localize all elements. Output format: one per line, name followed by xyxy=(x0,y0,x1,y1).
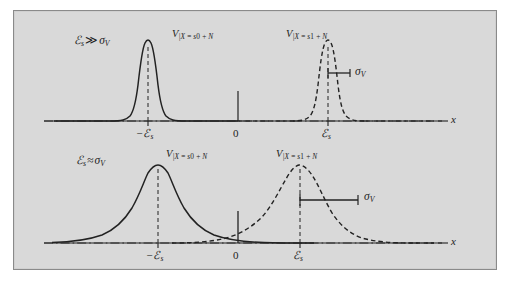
top-left-curve-label-cond: |X = s0 + N xyxy=(178,32,213,41)
top-tick-label-minus-es: −ℰs xyxy=(136,128,153,141)
bottom-tick-E-sub: s xyxy=(160,254,163,263)
bottom-sigma-sub: V xyxy=(370,195,375,204)
bottom-regime-label: ℰs≈σV xyxy=(76,155,105,168)
top-sigma-sub: V xyxy=(361,70,366,79)
top-regime-relation: ≫ xyxy=(84,34,99,46)
bottom-right-curve-label-cond: |X = s1 + N xyxy=(282,152,317,161)
top-right-curve-label-cond: |X = s1 + N xyxy=(292,32,327,41)
top-sigma-annotation-label: σV xyxy=(355,66,366,79)
top-tick-E-pos: ℰ xyxy=(321,127,328,139)
top-panel-graphics xyxy=(44,40,448,126)
top-regime-E: ℰ xyxy=(74,34,81,46)
bottom-regime-E: ℰ xyxy=(76,154,83,166)
bottom-tick-E-pos-sub: s xyxy=(300,254,303,263)
figure-root: ℰs≫σV V|X = s0 + N V|X = s1 + N σV −ℰs 0… xyxy=(0,0,526,286)
bottom-axis-label-x: x xyxy=(451,236,456,247)
bottom-left-curve-label-cond: |X = s0 + N xyxy=(172,152,207,161)
bottom-left-curve-label: V|X = s0 + N xyxy=(166,149,207,161)
bottom-right-curve xyxy=(172,165,434,243)
figure-panel: ℰs≫σV V|X = s0 + N V|X = s1 + N σV −ℰs 0… xyxy=(13,10,497,270)
top-axis-label-x: x xyxy=(451,114,456,125)
top-right-curve-label: V|X = s1 + N xyxy=(286,29,327,41)
bottom-sigma-annotation-label: σV xyxy=(364,191,375,204)
top-tick-E-pos-sub: s xyxy=(328,132,331,141)
top-regime-label: ℰs≫σV xyxy=(74,35,110,48)
plot-canvas xyxy=(14,11,498,271)
top-tick-label-zero: 0 xyxy=(233,128,239,139)
bottom-right-curve-label: V|X = s1 + N xyxy=(276,149,317,161)
bottom-regime-sigma-sub: V xyxy=(100,159,105,168)
bottom-panel-graphics xyxy=(44,165,448,248)
top-left-curve xyxy=(110,40,186,121)
top-regime-sigma-sub: V xyxy=(105,39,110,48)
bottom-tick-label-minus-es: −ℰs xyxy=(146,250,163,263)
bottom-tick-label-zero: 0 xyxy=(233,250,239,261)
top-left-curve-label: V|X = s0 + N xyxy=(172,29,213,41)
bottom-tick-label-plus-es: ℰs xyxy=(293,250,303,263)
top-right-curve xyxy=(290,40,366,121)
top-tick-E-sub: s xyxy=(150,132,153,141)
bottom-tick-E-pos: ℰ xyxy=(293,249,300,261)
top-tick-label-plus-es: ℰs xyxy=(321,128,331,141)
bottom-left-curve xyxy=(52,165,314,243)
